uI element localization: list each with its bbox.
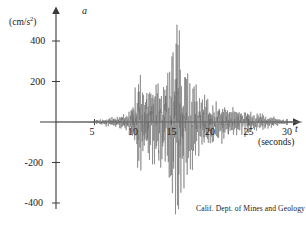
y-axis-symbol-label: a xyxy=(82,6,87,16)
x-tick-label: 20 xyxy=(205,127,215,137)
x-axis-symbol-label: t xyxy=(295,124,298,134)
seismogram-plot xyxy=(0,0,306,227)
y-axis-unit-suffix: ) xyxy=(33,17,36,27)
x-axis-unit-label: (seconds) xyxy=(258,138,294,148)
seismogram-figure: a (cm/s2) t (seconds) Calif. Dept. of Mi… xyxy=(0,0,306,227)
y-axis-unit-prefix: (cm/s xyxy=(9,17,30,27)
x-tick-label: 10 xyxy=(128,127,138,137)
x-tick-label: 25 xyxy=(244,127,254,137)
acceleration-trace xyxy=(56,25,302,215)
y-tick-label: -400 xyxy=(25,198,43,208)
source-credit: Calif. Dept. of Mines and Geology xyxy=(196,205,305,213)
x-tick-label: 5 xyxy=(90,127,95,137)
x-tick-label: 15 xyxy=(167,127,177,137)
y-tick-label: 400 xyxy=(30,36,45,46)
y-tick-label: 200 xyxy=(30,77,45,87)
x-tick-label: 30 xyxy=(282,127,292,137)
y-axis-unit-label: (cm/s2) xyxy=(9,16,37,28)
y-tick-label: -200 xyxy=(25,158,43,168)
axes-group xyxy=(40,7,301,210)
y-axis-arrow-icon xyxy=(52,7,60,15)
